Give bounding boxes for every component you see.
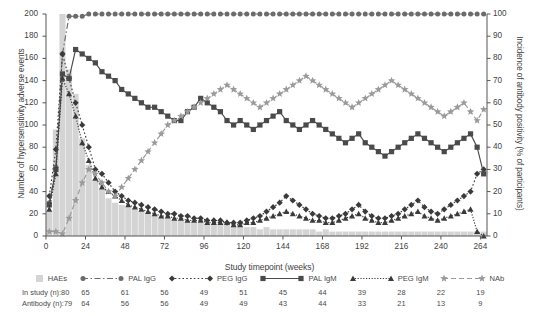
hae-bar [441, 232, 447, 236]
data-point [92, 175, 98, 181]
data-point [132, 96, 137, 101]
data-point [323, 12, 328, 17]
data-point [303, 206, 309, 212]
hae-bar [349, 232, 355, 236]
hae-bar [119, 205, 125, 236]
hae-bar [375, 232, 381, 236]
y-tick-right: 0 [493, 231, 523, 240]
y-tick-right: 50 [493, 120, 523, 129]
data-point [317, 122, 322, 127]
hae-bar [329, 232, 335, 236]
data-point [336, 217, 342, 223]
data-point [468, 206, 474, 212]
data-point [461, 136, 466, 141]
data-point [86, 56, 91, 61]
legend-item-peg-igm: PEG IgM [349, 273, 429, 284]
y-tick-left: 200 [8, 9, 38, 18]
data-point [271, 12, 276, 17]
sample-size-cell: 49 [226, 299, 260, 308]
data-point [113, 12, 118, 17]
hae-bar [461, 232, 467, 236]
x-tick: 48 [105, 242, 145, 251]
data-point [99, 69, 104, 74]
sample-size-cell: 19 [463, 288, 497, 297]
data-point [79, 122, 85, 128]
sample-size-cell: 65 [68, 288, 102, 297]
data-point [402, 213, 408, 219]
data-point [317, 12, 322, 17]
data-point [310, 118, 315, 123]
hae-bar [59, 14, 65, 236]
y-tick-right: 40 [493, 142, 523, 151]
data-point [402, 12, 407, 17]
data-point [211, 105, 216, 110]
data-point [86, 12, 91, 17]
data-point [415, 12, 420, 17]
data-point [369, 145, 374, 150]
hae-bar [454, 232, 460, 236]
data-point [422, 12, 427, 17]
data-point [455, 12, 460, 17]
data-point [217, 86, 224, 93]
hae-bar [362, 232, 368, 236]
data-point [461, 193, 467, 199]
x-tick: 216 [381, 242, 421, 251]
sample-size-cell: 21 [384, 299, 418, 308]
data-point [362, 215, 368, 221]
data-point [231, 12, 236, 17]
data-point [289, 81, 296, 88]
hae-bar [356, 232, 362, 236]
legend-label: HAEs [48, 274, 67, 283]
data-point [277, 12, 282, 17]
data-point [448, 213, 454, 219]
data-point [257, 122, 262, 127]
x-tick: 96 [184, 242, 224, 251]
data-point [448, 12, 453, 17]
hae-bar [421, 232, 427, 236]
data-point [283, 208, 289, 214]
sample-size-label: In study (n):80 [22, 288, 69, 297]
data-point [336, 136, 341, 141]
hae-bar [158, 218, 164, 236]
x-axis-title: Study timepoint (weeks) [0, 262, 539, 272]
data-point [159, 12, 164, 17]
sample-size-row: Antibody (n):79645656494943443321139 [0, 299, 539, 310]
data-point [81, 276, 86, 281]
data-point [283, 86, 290, 93]
data-point [467, 108, 474, 115]
data-point [481, 171, 486, 176]
data-point [139, 100, 144, 105]
hae-bar [395, 232, 401, 236]
data-point [299, 276, 304, 281]
data-point [363, 12, 368, 17]
data-point [330, 131, 335, 136]
hae-bar [435, 232, 441, 236]
hae-bar [92, 181, 98, 237]
data-point [479, 275, 486, 282]
data-point [290, 122, 295, 127]
data-point [277, 211, 283, 217]
data-point [290, 12, 295, 17]
data-point [269, 94, 276, 101]
data-point [218, 12, 223, 17]
hae-bar [211, 225, 217, 236]
hae-bar [389, 232, 395, 236]
data-point [270, 114, 275, 119]
hae-bar [99, 189, 105, 236]
data-point [402, 206, 408, 212]
y-tick-left: 20 [8, 209, 38, 218]
data-point [435, 211, 441, 217]
data-point [389, 217, 395, 223]
data-point [238, 118, 243, 123]
data-point [290, 197, 296, 203]
data-point [408, 202, 414, 208]
data-point [125, 202, 131, 208]
sample-size-cell: 49 [187, 299, 221, 308]
data-point [251, 12, 256, 17]
hae-bar [198, 223, 204, 236]
chart-canvas [46, 14, 487, 236]
data-point [475, 145, 480, 150]
hae-bar [79, 138, 85, 236]
data-point [113, 78, 118, 83]
data-point [185, 12, 190, 17]
